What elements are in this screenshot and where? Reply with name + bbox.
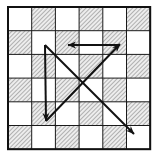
grid-cell-1-0 (8, 31, 32, 55)
grid-cell-2-0 (8, 54, 32, 78)
grid-cell-0-4 (103, 7, 127, 31)
grid-cell-5-2 (55, 126, 79, 150)
grid-cell-5-1 (32, 126, 56, 150)
grid-cell-3-0 (8, 78, 32, 102)
grid-cell-3-1 (32, 78, 56, 102)
grid-cell-4-5 (127, 102, 151, 126)
grid-cell-5-3 (79, 126, 103, 150)
grid-cell-5-0 (8, 126, 32, 150)
grid-cell-4-0 (8, 102, 32, 126)
grid-cell-4-2 (55, 102, 79, 126)
vector-vertical-down (45, 45, 46, 121)
grid-cell-1-5 (127, 31, 151, 55)
grid-cell-0-1 (32, 7, 56, 31)
grid-cell-0-2 (55, 7, 79, 31)
figure-container (0, 0, 158, 158)
grid-cell-0-0 (8, 7, 32, 31)
checkerboard-vector-figure (0, 0, 158, 158)
grid-cell-3-5 (127, 78, 151, 102)
grid-cell-5-4 (103, 126, 127, 150)
grid-cell-1-2 (55, 31, 79, 55)
grid-cell-0-3 (79, 7, 103, 31)
grid-cell-1-3 (79, 31, 103, 55)
grid-cell-3-4 (103, 78, 127, 102)
grid-cell-0-5 (127, 7, 151, 31)
grid-cell-2-5 (127, 54, 151, 78)
grid-cell-2-1 (32, 54, 56, 78)
grid-cell-4-3 (79, 102, 103, 126)
